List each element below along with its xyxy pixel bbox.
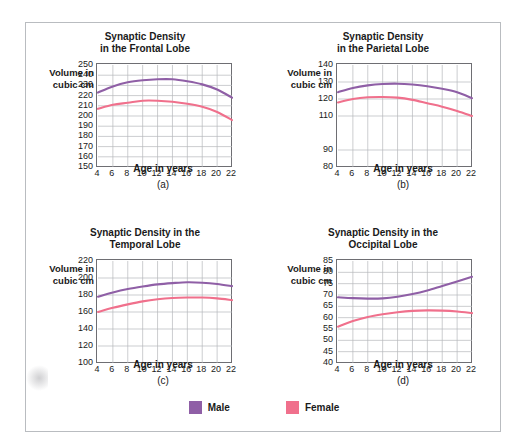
x-axis-title-b: Age in years	[264, 163, 502, 174]
y-tick-label: 130	[318, 77, 333, 86]
chart-title-line1: Synaptic Density	[278, 31, 488, 43]
chart-title-line1: Synaptic Density in the	[40, 227, 250, 239]
axis-wrap-a: 250240230220210200190180170160150 468101…	[96, 63, 232, 167]
y-tick-label: 80	[323, 267, 333, 276]
y-tick-label: 240	[78, 70, 93, 79]
y-tick-label: 85	[323, 256, 333, 265]
chart-svg-d	[337, 260, 473, 364]
y-tick-label: 60	[323, 312, 333, 321]
legend-swatch-icon	[286, 401, 299, 414]
plot-row-a: Volume in cubic cm 250240230220210200190…	[26, 57, 264, 177]
y-tick-labels-a: 250240230220210200190180170160150	[67, 63, 93, 167]
chart-title-b: Synaptic Density in the Parietal Lobe	[264, 27, 502, 57]
y-tick-label: 220	[78, 256, 93, 265]
axis-wrap-d: 85807570656055504540 46810121416182022	[336, 259, 472, 363]
series-line-male	[338, 84, 472, 98]
chart-panel-d: Synaptic Density in the Occipital Lobe V…	[264, 223, 502, 418]
y-tick-label: 55	[323, 324, 333, 333]
plot-row-b: Volume in cubic cm 1401301201109080 4681…	[264, 57, 502, 177]
chart-svg-a	[97, 64, 233, 168]
chart-title-line2: Occipital Lobe	[278, 239, 488, 251]
y-tick-label: 75	[323, 278, 333, 287]
series-line-female	[338, 97, 472, 116]
chart-panel-a: Synaptic Density in the Frontal Lobe Vol…	[26, 27, 264, 222]
y-tick-label: 90	[323, 145, 333, 154]
legend-label: Female	[305, 402, 339, 413]
chart-svg-c	[97, 260, 233, 364]
chart-title-line1: Synaptic Density	[40, 31, 250, 43]
legend-item-male: Male	[189, 401, 230, 414]
plot-row-d: Volume in cubic cm 85807570656055504540 …	[264, 253, 502, 373]
y-tick-label: 250	[78, 60, 93, 69]
plot-area-b	[336, 63, 472, 167]
y-tick-label: 110	[319, 111, 333, 120]
y-tick-label: 140	[318, 60, 333, 69]
axis-wrap-c: 220200180160140120100 46810121416182022	[96, 259, 232, 363]
y-tick-label: 50	[323, 335, 333, 344]
y-tick-label: 230	[78, 80, 93, 89]
y-tick-label: 120	[318, 94, 333, 103]
plot-row-c: Volume in cubic cm 220200180160140120100…	[26, 253, 264, 373]
y-tick-label: 180	[78, 290, 93, 299]
y-tick-labels-b: 1401301201109080	[307, 63, 333, 167]
y-tick-label: 220	[78, 90, 93, 99]
series-line-female	[338, 310, 472, 326]
chart-panel-c: Synaptic Density in the Temporal Lobe Vo…	[26, 223, 264, 418]
chart-title-line2: Temporal Lobe	[40, 239, 250, 251]
y-tick-label: 190	[78, 121, 93, 130]
legend-item-female: Female	[286, 401, 339, 414]
plot-area-c	[96, 259, 232, 363]
x-axis-title-c: Age in years	[26, 359, 264, 370]
series-line-male	[338, 277, 472, 299]
chart-svg-b	[337, 64, 473, 168]
y-tick-label: 160	[78, 307, 93, 316]
chart-title-line2: in the Parietal Lobe	[278, 43, 488, 55]
y-tick-label: 200	[78, 273, 93, 282]
plot-area-a	[96, 63, 232, 167]
axis-wrap-b: 1401301201109080 46810121416182022	[336, 63, 472, 167]
y-tick-labels-c: 220200180160140120100	[67, 259, 93, 363]
chart-title-a: Synaptic Density in the Frontal Lobe	[26, 27, 264, 57]
series-line-male	[98, 79, 232, 98]
y-tick-label: 210	[78, 100, 93, 109]
x-axis-title-a: Age in years	[26, 163, 264, 174]
y-tick-label: 160	[78, 151, 93, 160]
chart-title-d: Synaptic Density in the Occipital Lobe	[264, 223, 502, 253]
figure-legend: MaleFemale	[26, 401, 502, 414]
y-tick-label: 45	[323, 346, 333, 355]
panel-caption-a: (a)	[26, 179, 264, 190]
y-tick-label: 200	[78, 111, 93, 120]
chart-title-c: Synaptic Density in the Temporal Lobe	[26, 223, 264, 253]
y-tick-label: 120	[78, 341, 93, 350]
panel-caption-c: (c)	[26, 375, 264, 386]
legend-swatch-icon	[189, 401, 202, 414]
figure-frame: Synaptic Density in the Frontal Lobe Vol…	[25, 22, 501, 432]
plot-area-d	[336, 259, 472, 363]
chart-title-line1: Synaptic Density in the	[278, 227, 488, 239]
y-tick-label: 65	[323, 301, 333, 310]
chart-panel-b: Synaptic Density in the Parietal Lobe Vo…	[264, 27, 502, 222]
legend-label: Male	[208, 402, 230, 413]
y-tick-labels-d: 85807570656055504540	[307, 259, 333, 363]
grid-lines	[98, 65, 232, 167]
y-tick-label: 180	[78, 131, 93, 140]
panel-caption-d: (d)	[264, 375, 502, 386]
y-tick-label: 70	[323, 290, 333, 299]
x-axis-title-d: Age in years	[264, 359, 502, 370]
panel-caption-b: (b)	[264, 179, 502, 190]
series-line-male	[98, 282, 232, 296]
grid-lines	[98, 261, 232, 363]
grid-lines	[338, 65, 472, 167]
y-tick-label: 170	[78, 141, 93, 150]
series-line-female	[98, 101, 232, 121]
y-tick-label: 140	[78, 324, 93, 333]
series-line-female	[98, 297, 232, 312]
chart-title-line2: in the Frontal Lobe	[40, 43, 250, 55]
